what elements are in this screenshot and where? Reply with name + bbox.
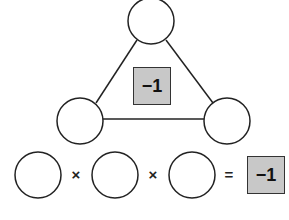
equation-result: −1 <box>247 156 285 194</box>
times-operator-1: × <box>69 167 83 183</box>
node-bottom-right[interactable] <box>204 98 250 144</box>
node-bottom-left[interactable] <box>57 98 103 144</box>
node-top[interactable] <box>128 0 174 44</box>
edge-top-right <box>166 40 213 103</box>
operand-2[interactable] <box>92 152 138 198</box>
equals-sign: = <box>222 167 236 183</box>
edge-top-left <box>96 40 137 103</box>
operand-3[interactable] <box>169 152 215 198</box>
triangle-center-value: −1 <box>133 67 171 105</box>
operand-1[interactable] <box>15 152 61 198</box>
triangle-diagram <box>0 0 289 220</box>
times-operator-2: × <box>146 167 160 183</box>
